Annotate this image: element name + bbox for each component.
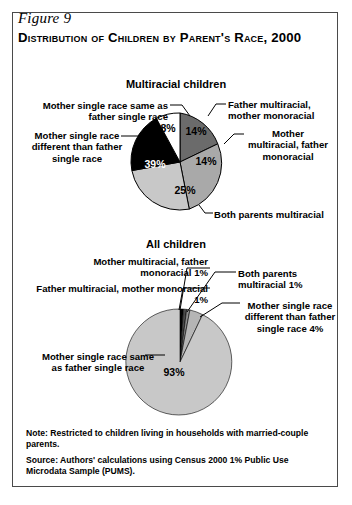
note-text: Note: Restricted to children living in h… <box>26 428 314 449</box>
source-text: Source: Authors' calculations using Cens… <box>26 455 314 476</box>
